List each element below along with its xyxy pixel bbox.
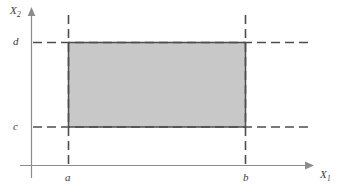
- x-tick-label-b: b: [243, 172, 249, 183]
- y-axis-label-text: X: [10, 4, 17, 16]
- x-axis-label: X1: [320, 169, 330, 180]
- y-axis-arrowhead: [28, 7, 36, 16]
- rectangle-region-figure: X2 X1 d c a b: [0, 0, 338, 195]
- figure-canvas: [0, 0, 338, 195]
- x-axis-label-text: X: [320, 168, 327, 180]
- x-axis-label-subscript: 1: [327, 174, 331, 183]
- shaded-rectangle: [69, 43, 246, 128]
- y-axis-label: X2: [10, 5, 20, 16]
- y-axis-label-subscript: 2: [17, 10, 21, 19]
- y-tick-label-c: c: [13, 121, 18, 132]
- y-tick-label-d: d: [13, 36, 19, 47]
- x-axis-arrowhead: [305, 162, 314, 170]
- x-tick-label-a: a: [65, 172, 71, 183]
